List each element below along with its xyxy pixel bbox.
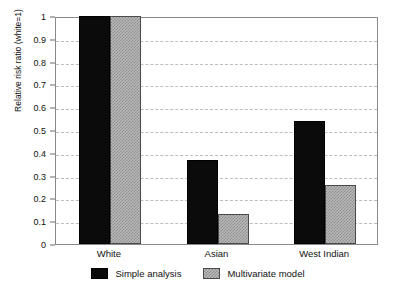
legend-entry: Multivariate model bbox=[203, 268, 304, 279]
legend-entry: Simple analysis bbox=[91, 268, 181, 279]
chart-legend: Simple analysisMultivariate model bbox=[0, 268, 396, 279]
legend-label: Multivariate model bbox=[227, 268, 304, 279]
x-axis-tick-label: White bbox=[97, 248, 121, 259]
plot-area bbox=[55, 17, 378, 245]
bar bbox=[294, 121, 325, 244]
y-axis-tick-label: 0.1 bbox=[33, 218, 46, 227]
y-axis-tick-label: 0.7 bbox=[33, 81, 46, 90]
y-axis-tick-label: 0.4 bbox=[33, 149, 46, 158]
x-axis-tick-label: Asian bbox=[205, 248, 229, 259]
y-axis-tick-label: 1 bbox=[41, 13, 46, 22]
legend-label: Simple analysis bbox=[115, 268, 181, 279]
x-axis-tick-labels: WhiteAsianWest Indian bbox=[55, 248, 378, 264]
y-axis-tick-label: 0.2 bbox=[33, 195, 46, 204]
y-axis-tick-label: 0 bbox=[41, 241, 46, 250]
y-axis-tick-label: 0.9 bbox=[33, 35, 46, 44]
bar bbox=[218, 214, 249, 244]
y-axis-tick-label: 0.5 bbox=[33, 127, 46, 136]
y-axis-tick-label: 0.6 bbox=[33, 104, 46, 113]
legend-swatch-icon bbox=[91, 268, 108, 279]
chart-figure: Relative risk ratio (white=1) 00.10.20.3… bbox=[0, 0, 396, 296]
bar bbox=[110, 16, 141, 244]
y-axis-tick-label: 0.8 bbox=[33, 58, 46, 67]
bar bbox=[325, 185, 356, 244]
legend-swatch-icon bbox=[203, 268, 220, 279]
bar bbox=[79, 16, 110, 244]
x-axis-tick-label: West Indian bbox=[299, 248, 349, 259]
y-axis-ticks: 00.10.20.30.40.50.60.70.80.91 bbox=[0, 17, 55, 245]
y-axis-tick-label: 0.3 bbox=[33, 172, 46, 181]
bar bbox=[187, 160, 218, 244]
